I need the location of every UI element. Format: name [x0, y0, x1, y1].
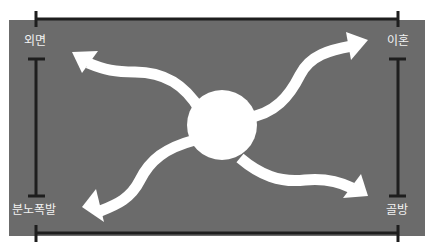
- quadrant-diagram: 외면 이혼 분노폭발 골방: [0, 0, 435, 250]
- label-bottom-left: 분노폭발: [12, 203, 56, 217]
- center-circle: [187, 90, 257, 160]
- label-top-right: 이혼: [387, 34, 409, 48]
- label-top-left: 외면: [24, 34, 46, 48]
- diagram-canvas: [0, 0, 435, 250]
- label-bottom-right: 골방: [386, 203, 408, 217]
